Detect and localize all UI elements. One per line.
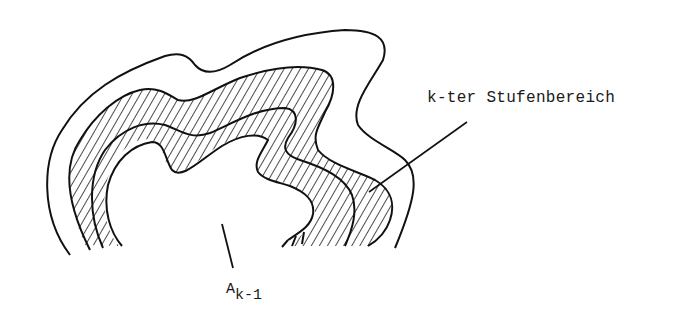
previous-region-label: Ak-1 — [226, 281, 262, 298]
previous-region-label-main: A — [226, 281, 235, 298]
region-diagram — [0, 0, 685, 321]
hatched-stage-region — [70, 67, 393, 246]
stufenbereich-leader-line — [369, 122, 467, 192]
previous-region-label-subscript: k-1 — [235, 287, 262, 304]
a-region-leader-line — [222, 224, 233, 268]
stage-region-label: k-ter Stufenbereich — [427, 89, 615, 107]
